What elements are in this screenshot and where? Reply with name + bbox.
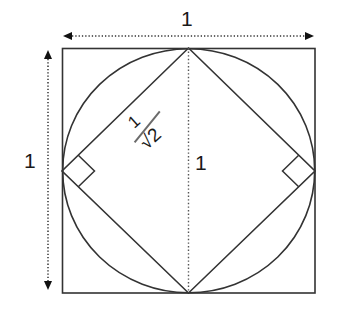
right-angle-marker-right [283,155,299,186]
right-angle-marker-left [78,155,94,186]
left-dimension-label: 1 [24,150,36,171]
center-diagonal-label: 1 [195,152,207,173]
geometry-canvas [0,0,339,309]
top-dimension-label: 1 [181,8,193,29]
geometry-figure: 1 1 1 1 √2 [0,0,339,309]
fraction-numerator: 1 [125,112,143,131]
